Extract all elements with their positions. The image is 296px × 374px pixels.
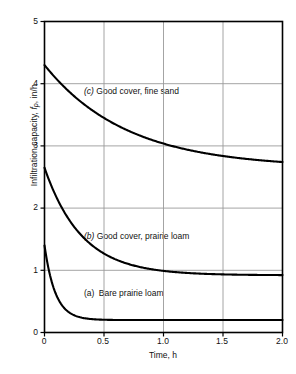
axis-ticks xyxy=(41,22,283,337)
plot-area xyxy=(0,0,296,374)
infiltration-capacity-chart: Infiltration capacity, fp, in/h Time, h … xyxy=(0,0,296,374)
gridlines xyxy=(45,22,283,333)
